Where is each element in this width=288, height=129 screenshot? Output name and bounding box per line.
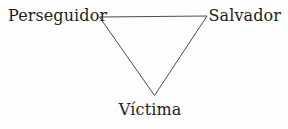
label-victima: Víctima xyxy=(119,102,182,118)
label-perseguidor: Perseguidor xyxy=(8,8,107,24)
label-salvador: Salvador xyxy=(208,8,281,24)
drama-triangle-diagram: Perseguidor Salvador Víctima xyxy=(0,0,288,129)
inverted-triangle-outline xyxy=(100,16,208,96)
